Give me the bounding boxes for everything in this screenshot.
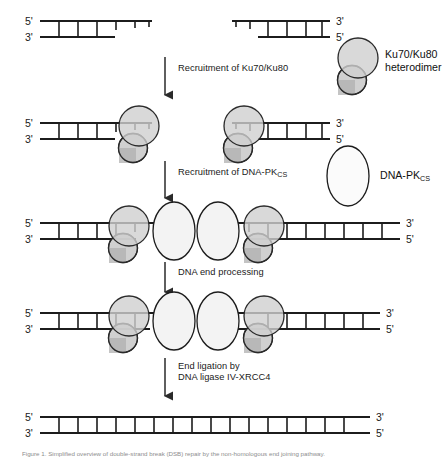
legend-label-dnapk-subscript: CS [420,174,430,183]
label-5prime: 5' [25,411,33,423]
label-3prime: 3' [336,117,344,129]
legend-ku-glyph [338,38,379,95]
ku-heterodimer [109,206,150,263]
label-5prime: 5' [376,427,384,439]
legend-dnapk-glyph [327,146,369,206]
ku-heterodimer [224,106,265,163]
step-2-ku-bound [40,106,330,163]
label-5prime: 5' [25,217,33,229]
dna-right-half [212,223,400,239]
step-3-dnapk-synapsis [40,202,400,263]
dna-pkcs [153,292,195,350]
dna-fragment-right [232,21,330,37]
label-3prime: 3' [25,233,33,245]
legend-label-ku-line1: Ku70/Ku80 [385,48,437,61]
step-1-broken-dna [40,21,330,37]
arrow-label-dnapk-subscript: CS [277,170,287,179]
arrow-label-dnapk-text: Recruitment of DNA-PK [178,167,277,177]
legend-label-ku-line2: heterodimer [385,61,442,74]
arrow-label-recruitment-ku: Recruitment of Ku70/Ku80 [178,63,288,74]
legend-label-dna-pkcs: DNA-PKCS [380,169,430,184]
label-3prime: 3' [25,427,33,439]
dna-left-half [40,313,172,329]
arrow-label-recruitment-dnapk: Recruitment of DNA-PKCS [178,167,287,178]
ku-heterodimer [109,296,150,353]
label-5prime: 5' [25,307,33,319]
label-3prime: 3' [25,323,33,335]
arrow-label-dna-end-processing: DNA end processing [178,267,264,278]
step-4-processed-ends [40,292,380,353]
dna-pkcs [153,202,195,260]
label-3prime: 3' [406,217,414,229]
label-3prime: 3' [376,411,384,423]
label-3prime: 3' [336,15,344,27]
label-5prime: 5' [406,233,414,245]
ku-heterodimer [119,106,160,163]
dna-left-half [40,223,172,239]
dna-fragment-left [40,21,152,37]
ku-heterodimer [244,206,285,263]
dna-pkcs [197,292,239,350]
label-5prime: 5' [386,323,394,335]
label-5prime: 5' [336,31,344,43]
label-5prime: 5' [336,133,344,145]
figure-caption: Figure 1. Simplified overview of double-… [22,450,437,459]
legend-label-dnapk-text: DNA-PK [380,169,420,181]
step-5-ligated-dna [40,417,370,433]
dna-pkcs [197,202,239,260]
ku-heterodimer [244,296,285,353]
arrow-label-end-ligation-line2: DNA ligase IV-XRCC4 [178,372,270,383]
arrow-label-end-ligation-line1: End ligation by [178,361,240,372]
label-5prime: 5' [25,117,33,129]
label-3prime: 3' [25,31,33,43]
nhej-pathway-figure: 5' 3' 3' 5' 5' 3' 3' 5' 5' 3' 3' 5' 5' 3… [0,0,443,461]
label-3prime: 3' [386,307,394,319]
label-3prime: 3' [25,133,33,145]
label-5prime: 5' [25,15,33,27]
